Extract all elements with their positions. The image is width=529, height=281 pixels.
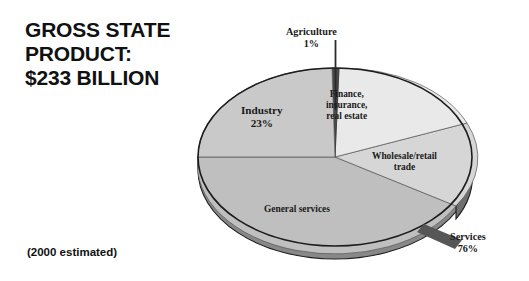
footnote-caption: (2000 estimated) xyxy=(27,246,117,258)
label-general-services-name: General services xyxy=(264,204,330,215)
label-finance-line-3: real estate xyxy=(326,111,367,122)
label-agriculture: Agriculture 1% xyxy=(286,26,337,50)
label-finance-insurance-real-estate: Finance, insurance, real estate xyxy=(326,89,367,122)
label-services-value: 76% xyxy=(450,243,486,255)
label-wholesale-line-2: trade xyxy=(372,162,437,173)
label-industry: Industry 23% xyxy=(241,104,283,130)
label-finance-line-2: insurance, xyxy=(326,100,367,111)
label-industry-value: 23% xyxy=(241,117,283,130)
chart-page: GROSS STATE PRODUCT: $233 BILLION (2000 … xyxy=(0,0,529,281)
label-services-group: Services 76% xyxy=(450,231,486,255)
label-wholesale-line-1: Wholesale/retail xyxy=(372,151,437,162)
label-wholesale-retail-trade: Wholesale/retail trade xyxy=(372,151,437,173)
label-general-services: General services xyxy=(264,204,330,215)
pie-chart: Agriculture 1% Finance, insurance, real … xyxy=(186,10,529,281)
label-agriculture-value: 1% xyxy=(286,38,337,50)
label-industry-name: Industry xyxy=(241,104,283,117)
label-finance-line-1: Finance, xyxy=(326,89,367,100)
label-agriculture-name: Agriculture xyxy=(286,26,337,38)
label-services-name: Services xyxy=(450,231,486,243)
